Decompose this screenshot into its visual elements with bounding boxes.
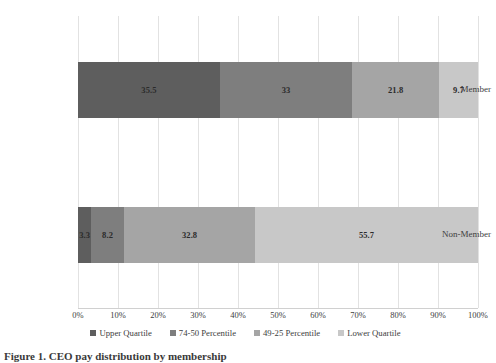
legend-swatch-icon <box>90 330 96 336</box>
bar-row: 35.53321.89.7 <box>78 62 478 118</box>
legend-item[interactable]: Lower Quartile <box>338 329 400 338</box>
bar-segment-value-label: 8.2 <box>102 231 113 240</box>
legend-label: Upper Quartile <box>99 329 151 338</box>
x-axis-tick-label: 60% <box>298 310 338 320</box>
x-axis-tick-label: 40% <box>218 310 258 320</box>
gridline <box>78 16 79 308</box>
x-axis-tick-label: 0% <box>58 310 98 320</box>
bar-segment-value-label: 35.5 <box>141 86 156 95</box>
legend-swatch-icon <box>170 330 176 336</box>
x-axis-tick-label: 90% <box>418 310 458 320</box>
x-axis-tick-label: 10% <box>98 310 138 320</box>
x-axis-line <box>78 308 478 309</box>
legend-swatch-icon <box>254 330 260 336</box>
category-axis-label: Member <box>419 84 491 94</box>
gridline <box>438 16 439 308</box>
legend-label: 74-50 Percentile <box>179 329 236 338</box>
x-axis-tick-labels: 0%10%20%30%40%50%60%70%80%90%100% <box>0 310 491 324</box>
legend-swatch-icon <box>338 330 344 336</box>
gridline <box>358 16 359 308</box>
gridline <box>118 16 119 308</box>
gridline <box>478 16 479 308</box>
bar-segment[interactable]: 32.8 <box>124 207 255 263</box>
gridline <box>198 16 199 308</box>
x-axis-tick-label: 70% <box>338 310 378 320</box>
bar-segment[interactable]: 8.2 <box>91 207 124 263</box>
figure-caption: Figure 1. CEO pay distribution by member… <box>4 350 491 362</box>
x-axis-tick-label: 30% <box>178 310 218 320</box>
x-axis-tick-label: 50% <box>258 310 298 320</box>
legend-item[interactable]: 49-25 Percentile <box>254 329 320 338</box>
gridline <box>278 16 279 308</box>
gridline <box>158 16 159 308</box>
bar-segment-value-label: 33 <box>282 86 291 95</box>
bar-segment-value-label: 55.7 <box>359 231 374 240</box>
gridline <box>398 16 399 308</box>
bar-segment-value-label: 3.3 <box>79 231 90 240</box>
bar-segment-value-label: 32.8 <box>182 231 197 240</box>
gridline <box>318 16 319 308</box>
gridline <box>238 16 239 308</box>
bar-segment[interactable]: 35.5 <box>78 62 220 118</box>
bar-segment[interactable]: 3.3 <box>78 207 91 263</box>
bar-segment-value-label: 21.8 <box>388 86 403 95</box>
bar-row: 3.38.232.855.7 <box>78 207 478 263</box>
category-axis-label: Non-Member <box>419 229 491 239</box>
bar-segment[interactable]: 33 <box>220 62 352 118</box>
x-axis-tick-label: 20% <box>138 310 178 320</box>
legend-item[interactable]: Upper Quartile <box>90 329 151 338</box>
legend-label: 49-25 Percentile <box>263 329 320 338</box>
chart-legend: Upper Quartile74-50 Percentile49-25 Perc… <box>0 329 491 338</box>
plot-area: 35.53321.89.73.38.232.855.7 <box>78 16 478 308</box>
legend-item[interactable]: 74-50 Percentile <box>170 329 236 338</box>
legend-label: Lower Quartile <box>347 329 400 338</box>
x-axis-tick-label: 100% <box>458 310 496 320</box>
x-axis-tick-label: 80% <box>378 310 418 320</box>
